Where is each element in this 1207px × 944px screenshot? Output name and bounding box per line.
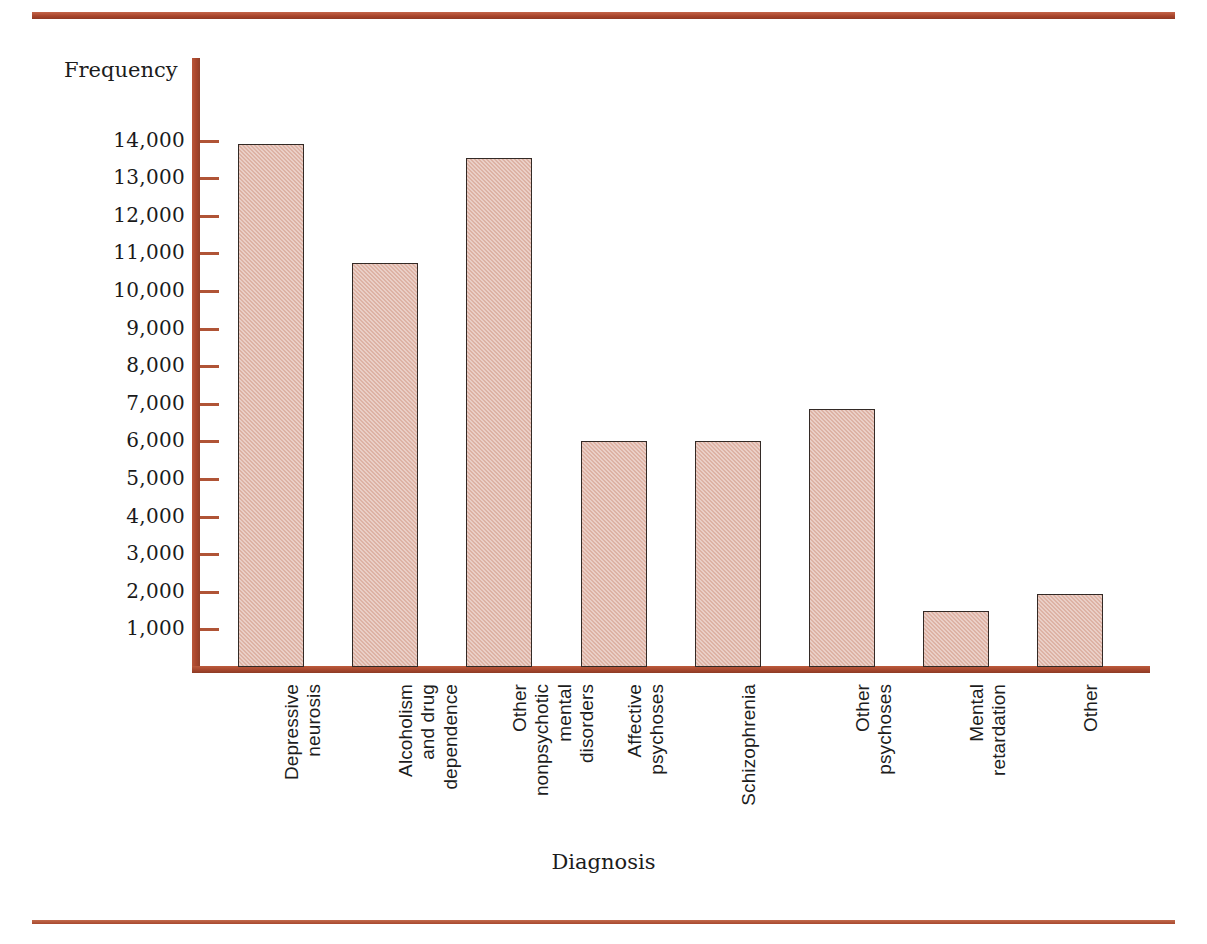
x-axis-category-label: Depressive neurosis (281, 684, 326, 834)
x-axis-title: Diagnosis (0, 850, 1207, 874)
bar[interactable] (923, 611, 989, 667)
y-axis-tick (200, 328, 219, 331)
y-axis-line (192, 58, 200, 672)
x-axis-category-label: Mental retardation (966, 684, 1011, 834)
y-axis-tick-label: 4,000 (126, 504, 185, 528)
chart-page: Frequency 14,00013,00012,00011,00010,000… (0, 0, 1207, 944)
y-axis-tick-label: 6,000 (126, 428, 185, 452)
bar[interactable] (352, 263, 418, 667)
y-axis-tick-label: 13,000 (113, 165, 185, 189)
y-axis-tick (200, 215, 219, 218)
x-axis-category-label: Schizophrenia (738, 684, 760, 834)
y-axis-tick-label: 12,000 (113, 203, 185, 227)
y-axis-tick-label: 3,000 (126, 541, 185, 565)
x-axis-line (192, 666, 1150, 673)
y-axis-tick (200, 252, 219, 255)
y-axis-tick (200, 553, 219, 556)
bar[interactable] (238, 144, 304, 667)
x-axis-category-label: Alcoholism and drug dependence (395, 684, 462, 834)
y-axis-tick-label: 1,000 (126, 616, 185, 640)
y-axis-tick-label: 9,000 (126, 316, 185, 340)
y-axis-tick-label: 7,000 (126, 391, 185, 415)
bar[interactable] (466, 158, 532, 667)
bar[interactable] (695, 441, 761, 667)
y-axis-tick (200, 478, 219, 481)
y-axis-tick (200, 628, 219, 631)
y-axis-tick (200, 140, 219, 143)
y-axis-tick-label: 2,000 (126, 579, 185, 603)
y-axis-tick-label: 14,000 (113, 128, 185, 152)
y-axis-tick-label: 8,000 (126, 353, 185, 377)
y-axis-title: Frequency (64, 58, 178, 82)
y-axis-tick (200, 403, 219, 406)
bar[interactable] (809, 409, 875, 667)
y-axis-tick (200, 591, 219, 594)
x-axis-category-label: Other psychoses (852, 684, 897, 834)
bar[interactable] (1037, 594, 1103, 667)
y-axis-tick-label: 10,000 (113, 278, 185, 302)
x-axis-category-label: Affective psychoses (624, 684, 669, 834)
y-axis-tick-label: 5,000 (126, 466, 185, 490)
bar[interactable] (581, 441, 647, 667)
y-axis-tick (200, 365, 219, 368)
x-axis-category-label: Other nonpsychotic mental disorders (509, 684, 599, 834)
y-axis-tick (200, 290, 219, 293)
y-axis-tick (200, 440, 219, 443)
bar-chart-plot: Frequency 14,00013,00012,00011,00010,000… (0, 0, 1207, 944)
y-axis-tick (200, 516, 219, 519)
y-axis-tick-label: 11,000 (113, 240, 185, 264)
y-axis-tick (200, 177, 219, 180)
x-axis-category-label: Other (1080, 684, 1102, 834)
